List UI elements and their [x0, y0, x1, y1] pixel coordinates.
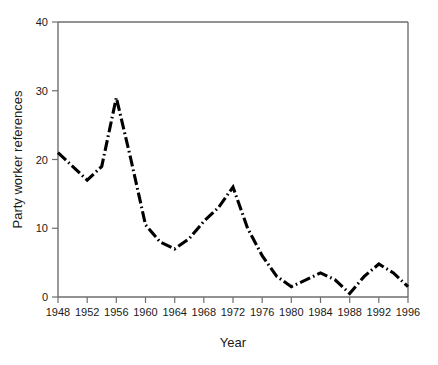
x-tick-label-1952: 1952	[75, 306, 99, 318]
x-tick-label-1984: 1984	[308, 306, 332, 318]
x-tick-label-1976: 1976	[250, 306, 274, 318]
y-tick-label-0: 0	[42, 291, 48, 303]
chart-figure: 0 10 20 30 40 1948 1952 1956 1960 1964	[0, 0, 438, 365]
y-tick-label-40: 40	[36, 16, 48, 28]
x-tick-label-1960: 1960	[133, 306, 157, 318]
y-tick-label-30: 30	[36, 85, 48, 97]
plot-axes	[58, 22, 408, 297]
x-tick-label-1948: 1948	[46, 306, 70, 318]
line-chart: 0 10 20 30 40 1948 1952 1956 1960 1964	[0, 0, 438, 365]
x-axis-title: Year	[220, 335, 247, 350]
x-tick-label-1980: 1980	[279, 306, 303, 318]
x-tick-label-1956: 1956	[104, 306, 128, 318]
x-tick-group: 1948 1952 1956 1960 1964 1968 1972 1976 …	[46, 297, 420, 318]
x-tick-label-1988: 1988	[337, 306, 361, 318]
x-tick-label-1972: 1972	[221, 306, 245, 318]
y-tick-label-20: 20	[36, 154, 48, 166]
y-tick-group: 0 10 20 30 40	[36, 16, 58, 303]
y-axis-title: Party worker references	[10, 90, 25, 228]
data-series-line	[58, 98, 408, 294]
x-tick-label-1968: 1968	[192, 306, 216, 318]
x-tick-label-1992: 1992	[367, 306, 391, 318]
y-tick-label-10: 10	[36, 222, 48, 234]
x-tick-label-1996: 1996	[396, 306, 420, 318]
x-tick-label-1964: 1964	[162, 306, 186, 318]
